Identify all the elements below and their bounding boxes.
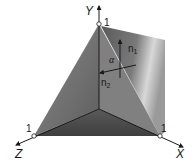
y-unit-point [97, 22, 101, 26]
y-unit-label: 1 [104, 17, 110, 28]
plane-normal-diagram: Y 1 Z 1 X 1 n1 n2 α [0, 0, 194, 166]
angle-alpha-label: α [109, 54, 115, 65]
z-axis-label: Z [14, 147, 23, 161]
x-axis-label: X [175, 147, 185, 161]
z-unit-label: 1 [26, 123, 32, 134]
z-unit-point [32, 134, 36, 138]
x-unit-label: 1 [161, 123, 167, 134]
y-axis-label: Y [85, 4, 94, 18]
x-unit-point [158, 134, 162, 138]
